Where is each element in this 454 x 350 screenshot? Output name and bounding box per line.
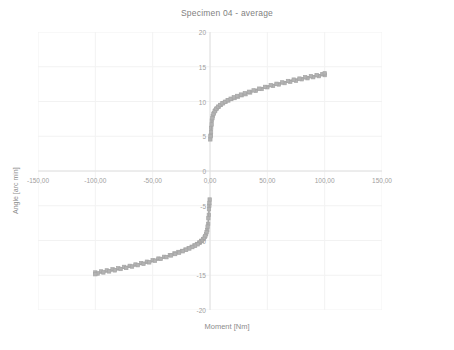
data-point-marker — [309, 74, 312, 77]
data-point-marker — [107, 270, 110, 273]
data-point-marker — [263, 85, 266, 88]
data-point-marker — [159, 257, 162, 260]
chart-title: Specimen 04 - average — [0, 8, 454, 18]
x-axis-tick-label: 100,00 — [315, 177, 335, 184]
data-point-marker — [243, 91, 246, 94]
data-point-marker — [136, 263, 139, 266]
data-point-marker — [236, 94, 239, 97]
data-point-marker — [252, 89, 255, 92]
data-point-marker — [207, 217, 210, 220]
data-point-marker — [153, 259, 156, 262]
y-axis-tick-label: 20 — [184, 29, 206, 36]
data-point-marker — [232, 96, 235, 99]
x-axis-tick-label: -100,00 — [84, 177, 106, 184]
x-axis-tick-label: -150,00 — [27, 177, 49, 184]
data-point-marker — [239, 93, 242, 96]
x-axis-tick-label: 50,00 — [259, 177, 275, 184]
data-point-marker — [211, 116, 214, 119]
y-axis-tick-label: -20 — [184, 307, 206, 314]
chart-canvas — [38, 32, 382, 310]
data-point-marker — [275, 82, 278, 85]
data-point-marker — [210, 123, 213, 126]
y-axis-title: Angle [arc min] — [12, 167, 19, 214]
x-axis-tick-label: 150,00 — [372, 177, 392, 184]
data-point-marker — [208, 198, 211, 201]
x-axis-tick-label: -50,00 — [143, 177, 161, 184]
plot-area — [38, 32, 382, 310]
data-point-marker — [209, 135, 212, 138]
y-axis-tick-label: 0 — [184, 168, 206, 175]
data-point-marker — [142, 262, 145, 265]
data-point-marker — [209, 130, 212, 133]
data-point-marker — [148, 261, 151, 264]
data-point-marker — [113, 269, 116, 272]
data-point-marker — [258, 87, 261, 90]
chart-container: Specimen 04 - average Angle [arc min] 20… — [0, 0, 454, 350]
data-point-marker — [292, 78, 295, 81]
data-point-marker — [177, 251, 180, 254]
x-axis-title: Moment [Nm] — [0, 322, 454, 331]
data-point-marker — [269, 83, 272, 86]
data-point-marker — [181, 250, 184, 253]
data-point-marker — [286, 79, 289, 82]
data-point-marker — [208, 201, 211, 204]
data-point-marker — [173, 252, 176, 255]
data-point-marker — [303, 75, 306, 78]
y-axis-tick-label: -10 — [184, 237, 206, 244]
y-axis-tick-label: 15 — [184, 63, 206, 70]
y-axis-tick-label: -5 — [184, 202, 206, 209]
axis-lines — [38, 32, 382, 310]
data-point-marker — [205, 230, 208, 233]
data-point-marker — [207, 208, 210, 211]
data-point-marker — [323, 72, 326, 75]
y-axis-tick-label: 5 — [184, 133, 206, 140]
data-point-marker — [298, 77, 301, 80]
y-axis-tick-label: -15 — [184, 272, 206, 279]
y-axis-tick-label: 10 — [184, 98, 206, 105]
data-point-marker — [315, 73, 318, 76]
data-point-marker — [184, 248, 187, 251]
data-point-marker — [125, 266, 128, 269]
x-axis-tick-label: 0,00 — [204, 177, 217, 184]
data-point-marker — [169, 254, 172, 257]
data-point-marker — [130, 265, 133, 268]
data-point-marker — [206, 225, 209, 228]
data-point-marker — [102, 271, 105, 274]
data-point-marker — [165, 255, 168, 258]
data-point-marker — [281, 81, 284, 84]
data-point-marker — [247, 90, 250, 93]
data-point-marker — [119, 267, 122, 270]
y-axis-title-wrapper: Angle [arc min] — [18, 96, 32, 206]
data-point-marker — [94, 273, 97, 276]
